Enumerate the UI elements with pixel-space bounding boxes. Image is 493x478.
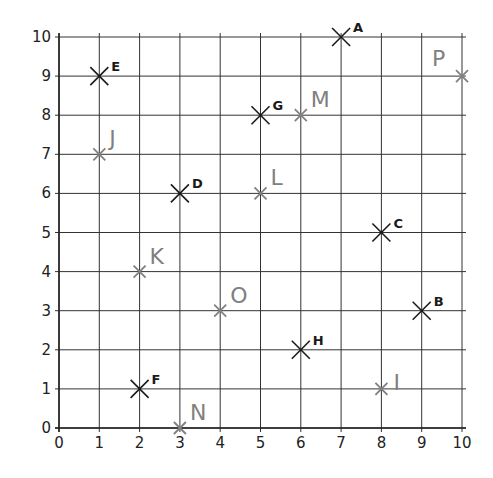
point-label: G bbox=[273, 98, 284, 113]
y-tick-label: 0 bbox=[41, 419, 51, 437]
x-tick-label: 10 bbox=[452, 434, 471, 452]
x-tick-label: 7 bbox=[336, 434, 346, 452]
point-b-cross-marker: B bbox=[413, 294, 444, 320]
x-tick-label: 1 bbox=[95, 434, 105, 452]
point-j-cross-marker: J bbox=[93, 126, 116, 160]
x-tick-label: 5 bbox=[256, 434, 266, 452]
y-tick-label: 4 bbox=[41, 263, 51, 281]
point-p-cross-marker: P bbox=[432, 46, 468, 82]
x-tick-label: 9 bbox=[417, 434, 427, 452]
point-d-cross-marker: D bbox=[171, 176, 203, 202]
y-tick-label: 3 bbox=[41, 302, 51, 320]
x-tick-label: 6 bbox=[296, 434, 306, 452]
gridlines bbox=[55, 33, 466, 432]
point-o-cross-marker: O bbox=[214, 283, 247, 317]
point-label: L bbox=[271, 165, 284, 190]
point-label: E bbox=[111, 59, 120, 74]
point-label: A bbox=[353, 20, 363, 35]
point-label: H bbox=[313, 333, 324, 348]
y-tick-label: 7 bbox=[41, 145, 51, 163]
x-tick-label: 0 bbox=[54, 434, 64, 452]
point-label: C bbox=[393, 216, 403, 231]
point-label: O bbox=[230, 283, 247, 308]
y-tick-label: 5 bbox=[41, 224, 51, 242]
point-l-cross-marker: L bbox=[255, 165, 284, 199]
x-tick-label: 2 bbox=[135, 434, 145, 452]
plotted-points: ABCDEFGHIJKLMNOP bbox=[90, 20, 468, 434]
point-label: F bbox=[152, 372, 161, 387]
point-i-cross-marker: I bbox=[375, 370, 400, 395]
point-e-cross-marker: E bbox=[90, 59, 120, 85]
x-tick-label: 3 bbox=[175, 434, 185, 452]
point-h-cross-marker: H bbox=[292, 333, 324, 359]
point-n-cross-marker: N bbox=[174, 400, 206, 434]
point-label: B bbox=[434, 294, 444, 309]
point-label: K bbox=[150, 244, 165, 269]
point-c-cross-marker: C bbox=[372, 216, 403, 242]
y-axis-tick-labels: 012345678910 bbox=[32, 28, 51, 437]
y-tick-label: 1 bbox=[41, 380, 51, 398]
point-label: M bbox=[311, 87, 330, 112]
coordinate-grid: 012345678910 012345678910 ABCDEFGHIJKLMN… bbox=[0, 0, 493, 478]
x-tick-label: 8 bbox=[377, 434, 387, 452]
y-tick-label: 8 bbox=[41, 106, 51, 124]
point-g-cross-marker: G bbox=[252, 98, 284, 124]
y-tick-label: 9 bbox=[41, 67, 51, 85]
x-axis-tick-labels: 012345678910 bbox=[54, 434, 471, 452]
y-tick-label: 6 bbox=[41, 184, 51, 202]
point-m-cross-marker: M bbox=[295, 87, 330, 121]
point-label: I bbox=[393, 370, 400, 395]
point-label: N bbox=[190, 400, 206, 425]
point-k-cross-marker: K bbox=[134, 244, 165, 278]
point-label: D bbox=[192, 176, 203, 191]
point-a-cross-marker: A bbox=[332, 20, 363, 46]
point-label: J bbox=[107, 126, 116, 151]
y-tick-label: 2 bbox=[41, 341, 51, 359]
x-tick-label: 4 bbox=[215, 434, 225, 452]
point-label: P bbox=[432, 46, 445, 71]
point-f-cross-marker: F bbox=[131, 372, 161, 398]
y-tick-label: 10 bbox=[32, 28, 51, 46]
